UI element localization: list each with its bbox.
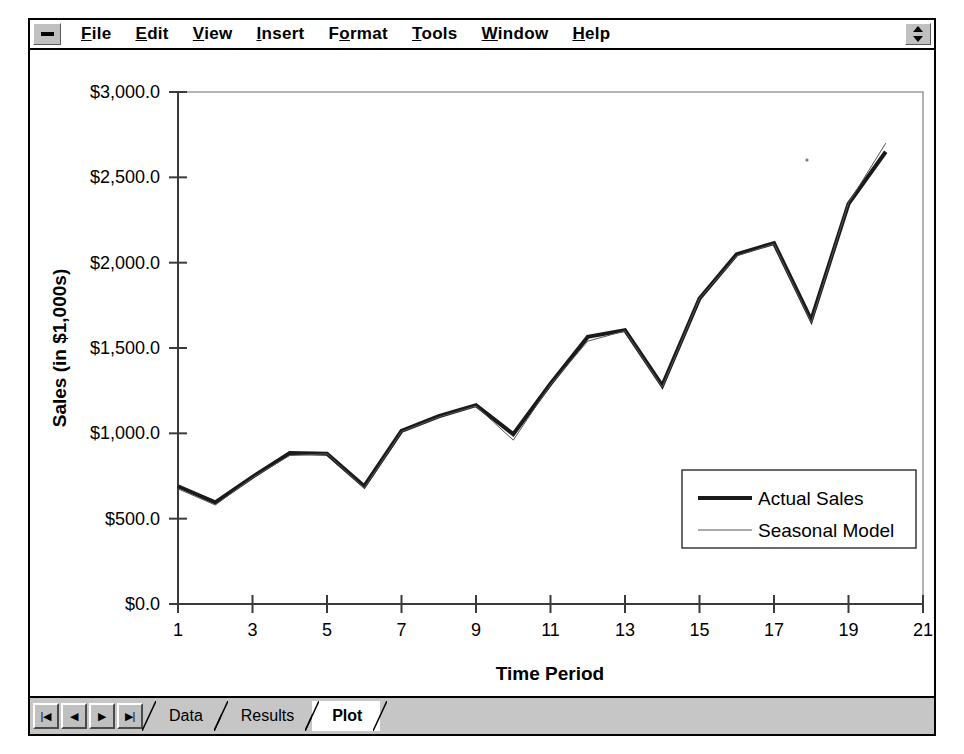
menu-item-insert[interactable]: Insert (256, 24, 304, 44)
sheet-tab-results[interactable]: Results (221, 701, 312, 731)
sheet-tab-label: Plot (332, 707, 362, 725)
y-tick-label: $3,000.0 (90, 82, 160, 102)
restore-updown-arrow-icon (911, 25, 925, 43)
menu-item-window[interactable]: Window (482, 24, 549, 44)
y-tick-label: $1,000.0 (90, 423, 160, 443)
y-axis-tick-labels: $0.0$500.0$1,000.0$1,500.0$2,000.0$2,500… (90, 82, 160, 614)
x-tick-label: 11 (541, 620, 560, 640)
x-tick-label: 19 (838, 620, 858, 640)
sheet-navigation-buttons: |◀◀▶▶| (33, 703, 143, 729)
sheet-tab-label: Data (169, 707, 203, 725)
sheet-tabs: DataResultsPlot (149, 701, 934, 731)
x-tick-label: 15 (689, 620, 709, 640)
previous-sheet-icon: ◀ (70, 711, 78, 722)
last-sheet-button[interactable]: ▶| (117, 703, 143, 729)
sheet-tab-plot[interactable]: Plot (312, 701, 380, 731)
first-sheet-button[interactable]: |◀ (33, 703, 59, 729)
minimize-box-icon (41, 32, 54, 36)
y-axis-title: Sales (in $1,000s) (49, 269, 70, 427)
legend-label-actual-sales: Actual Sales (758, 488, 864, 509)
sheet-tab-data[interactable]: Data (149, 701, 221, 731)
x-axis-tick-labels: 13579111315171921 (173, 620, 933, 640)
application-screenshot: FileEditViewInsertFormatToolsWindowHelp … (0, 0, 964, 754)
tab-left-slant (305, 701, 319, 731)
tab-left-slant (142, 701, 156, 731)
sales-line-chart: $0.0$500.0$1,000.0$1,500.0$2,000.0$2,500… (30, 50, 934, 696)
legend-label-seasonal-model: Seasonal Model (758, 520, 894, 541)
next-sheet-icon: ▶ (98, 711, 106, 722)
menu-item-format[interactable]: Format (329, 24, 388, 44)
scan-speck (805, 158, 808, 161)
x-tick-label: 3 (247, 620, 257, 640)
next-sheet-button[interactable]: ▶ (89, 703, 115, 729)
y-tick-label: $500.0 (105, 509, 160, 529)
menu-bar: FileEditViewInsertFormatToolsWindowHelp (30, 20, 934, 50)
previous-sheet-button[interactable]: ◀ (61, 703, 87, 729)
menu-item-file[interactable]: File (81, 24, 112, 44)
x-tick-label: 9 (471, 620, 481, 640)
x-tick-label: 13 (615, 620, 635, 640)
first-sheet-icon: |◀ (41, 711, 52, 722)
x-tick-label: 5 (322, 620, 332, 640)
y-tick-label: $2,000.0 (90, 253, 160, 273)
restore-window-button[interactable] (905, 23, 931, 45)
x-tick-label: 17 (764, 620, 784, 640)
tab-right-slant (373, 701, 387, 731)
tab-left-slant (214, 701, 228, 731)
chart-canvas[interactable]: $0.0$500.0$1,000.0$1,500.0$2,000.0$2,500… (30, 50, 934, 696)
y-tick-label: $2,500.0 (90, 167, 160, 187)
x-tick-label: 1 (173, 620, 183, 640)
menu-item-tools[interactable]: Tools (412, 24, 458, 44)
menu-item-help[interactable]: Help (572, 24, 610, 44)
system-menu-button[interactable] (33, 23, 61, 45)
x-tick-label: 7 (396, 620, 406, 640)
x-tick-label: 21 (913, 620, 933, 640)
last-sheet-icon: ▶| (125, 711, 136, 722)
y-tick-label: $0.0 (125, 594, 160, 614)
chart-legend[interactable]: Actual SalesSeasonal Model (682, 470, 916, 548)
menu-item-view[interactable]: View (193, 24, 233, 44)
sheet-tab-label: Results (241, 707, 294, 725)
x-axis-title: Time Period (496, 663, 604, 684)
y-tick-label: $1,500.0 (90, 338, 160, 358)
sheet-tab-bar: |◀◀▶▶| DataResultsPlot (30, 696, 934, 734)
menu-item-edit[interactable]: Edit (136, 24, 169, 44)
spreadsheet-window: FileEditViewInsertFormatToolsWindowHelp … (28, 18, 936, 736)
menu-item-list: FileEditViewInsertFormatToolsWindowHelp (65, 20, 902, 48)
